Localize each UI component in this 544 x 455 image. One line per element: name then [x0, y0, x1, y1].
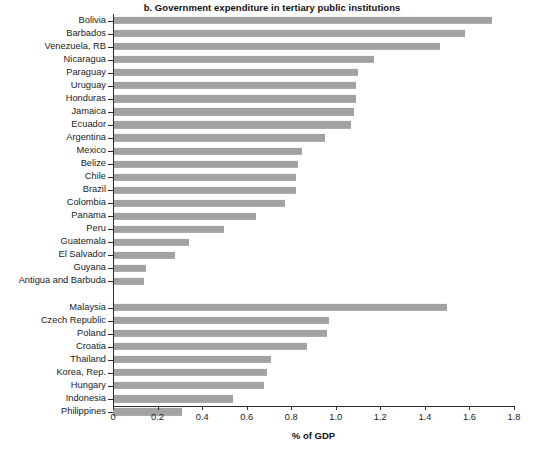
chart-container: b. Government expenditure in tertiary pu… — [0, 0, 544, 455]
x-axis-tick — [247, 406, 248, 410]
bar-category-label: Paraguay — [66, 68, 110, 77]
bar — [113, 369, 267, 376]
bar — [113, 134, 325, 141]
bar — [113, 356, 271, 363]
bar-category-label: Hungary — [71, 381, 110, 390]
bar-row: El Salvador — [0, 249, 544, 262]
x-axis-tick-label: 0 — [110, 412, 115, 422]
bar-row: Guyana — [0, 262, 544, 275]
x-axis-tick — [380, 406, 381, 410]
bar-row: Venezuela, RB — [0, 40, 544, 53]
bar-row: Antigua and Barbuda — [0, 275, 544, 288]
bar-row: Colombia — [0, 197, 544, 210]
bar-category-label: Poland — [77, 329, 110, 338]
x-axis-tick-label: 1.2 — [374, 412, 387, 422]
bar-row: Poland — [0, 327, 544, 340]
bar — [113, 160, 298, 167]
bar — [113, 56, 374, 63]
x-axis-tick-label: 1.0 — [329, 412, 342, 422]
x-axis-tick-label: 0.6 — [240, 412, 253, 422]
bar-category-label: Jamaica — [71, 107, 110, 116]
group-separator — [0, 288, 544, 301]
x-axis-tick — [158, 406, 159, 410]
x-axis-tick-label: 0.4 — [196, 412, 209, 422]
x-axis-tick — [469, 406, 470, 410]
bar — [113, 69, 358, 76]
bar — [113, 395, 233, 402]
bar-category-label: Barbados — [66, 29, 110, 38]
bar — [113, 200, 285, 207]
bar-row: Indonesia — [0, 392, 544, 405]
x-axis-title: % of GDP — [113, 430, 514, 441]
bar-row: Nicaragua — [0, 53, 544, 66]
bar-category-label: Ecuador — [71, 120, 110, 129]
bar — [113, 213, 256, 220]
y-axis-line — [113, 14, 114, 406]
bar-row: Chile — [0, 171, 544, 184]
bar — [113, 382, 264, 389]
x-axis-tick-label: 1.6 — [463, 412, 476, 422]
x-axis-line — [113, 406, 514, 407]
bar-row: Ecuador — [0, 118, 544, 131]
x-axis-tick-label: 1.4 — [418, 412, 431, 422]
x-axis-tick-label: 1.8 — [508, 412, 521, 422]
bar-row: Bolivia — [0, 14, 544, 27]
bar — [113, 30, 465, 37]
x-axis-tick-label: 0.2 — [151, 412, 164, 422]
bar-row: Brazil — [0, 184, 544, 197]
chart-title: b. Government expenditure in tertiary pu… — [0, 2, 544, 13]
bar — [113, 252, 175, 259]
x-axis-tick — [291, 406, 292, 410]
bar-row: Thailand — [0, 353, 544, 366]
bar-row: Argentina — [0, 131, 544, 144]
bar-category-label: Antigua and Barbuda — [19, 277, 110, 286]
bar-row: Honduras — [0, 92, 544, 105]
bar — [113, 95, 356, 102]
bar — [113, 278, 144, 285]
bar-category-label: Belize — [81, 159, 110, 168]
bar — [113, 408, 182, 415]
bar — [113, 108, 354, 115]
x-axis-tick — [514, 406, 515, 410]
bar-category-label: Peru — [86, 225, 110, 234]
bar-category-label: Malaysia — [69, 303, 110, 312]
bar-row: Malaysia — [0, 301, 544, 314]
x-axis-tick — [336, 406, 337, 410]
bar-row: Czech Republic — [0, 314, 544, 327]
bar-category-label: Guyana — [73, 264, 110, 273]
bar-row: Barbados — [0, 27, 544, 40]
bar — [113, 43, 440, 50]
bar — [113, 330, 327, 337]
bar — [113, 317, 329, 324]
bar-category-label: Uruguay — [71, 81, 110, 90]
bar-category-label: Nicaragua — [64, 55, 110, 64]
bar — [113, 343, 307, 350]
bar — [113, 187, 296, 194]
bar-row: Belize — [0, 158, 544, 171]
bar-category-label: Brazil — [83, 185, 110, 194]
bar-row: Paraguay — [0, 66, 544, 79]
bar-category-label: Honduras — [66, 94, 110, 103]
bar-category-label: El Salvador — [58, 251, 110, 260]
bar — [113, 173, 296, 180]
bar — [113, 17, 492, 24]
bar — [113, 147, 302, 154]
bar-category-label: Croatia — [76, 342, 110, 351]
x-axis-tick-label: 0.8 — [285, 412, 298, 422]
bar-category-label: Panama — [71, 212, 110, 221]
bar-category-label: Guatemala — [61, 238, 110, 247]
bar-row: Jamaica — [0, 105, 544, 118]
bar-row: Guatemala — [0, 236, 544, 249]
x-axis-tick — [113, 406, 114, 410]
x-axis-tick — [202, 406, 203, 410]
bar — [113, 82, 356, 89]
bar-row: Hungary — [0, 379, 544, 392]
bar-row: Croatia — [0, 340, 544, 353]
bar-category-label: Czech Republic — [41, 316, 110, 325]
bar-row: Korea, Rep. — [0, 366, 544, 379]
bar — [113, 226, 224, 233]
bar — [113, 121, 351, 128]
bar — [113, 265, 146, 272]
bar-category-label: Bolivia — [79, 16, 110, 25]
bar-row: Mexico — [0, 144, 544, 157]
